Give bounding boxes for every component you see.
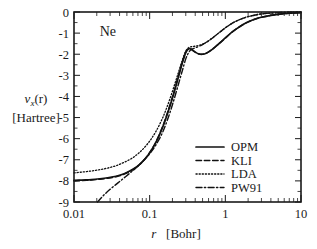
y-axis-arg: (r) bbox=[34, 91, 47, 106]
y-tick-label: -4 bbox=[59, 90, 70, 104]
plot-frame bbox=[74, 12, 301, 202]
data-curves bbox=[74, 12, 301, 202]
x-tick-label: 10 bbox=[295, 207, 308, 221]
legend-label-kli: KLI bbox=[231, 154, 252, 168]
xc-potential-chart: 0-1-2-3-4-5-6-7-8-9 0.010.1110 Ne vx(r) … bbox=[0, 0, 317, 249]
x-tick-label: 0.1 bbox=[142, 207, 158, 221]
y-tick-labels: 0-1-2-3-4-5-6-7-8-9 bbox=[59, 6, 70, 210]
y-tick-label: -8 bbox=[59, 174, 69, 188]
y-axis-unit: [Hartree] bbox=[12, 110, 60, 125]
legend-label-opm: OPM bbox=[231, 140, 258, 154]
x-tick-label: 0.01 bbox=[63, 207, 85, 221]
x-tick-labels: 0.010.1110 bbox=[63, 207, 307, 221]
y-tick-label: -3 bbox=[59, 69, 69, 83]
x-axis-title: r [Bohr] bbox=[151, 226, 200, 241]
y-tick-label: -5 bbox=[59, 111, 69, 125]
x-axis-unit: [Bohr] bbox=[166, 226, 201, 241]
species-annotation-label: Ne bbox=[100, 24, 116, 39]
y-axis-title: vx(r) bbox=[25, 91, 48, 108]
y-tick-label: 0 bbox=[63, 6, 69, 20]
legend-label-pw91: PW91 bbox=[231, 181, 262, 195]
y-tick-label: -6 bbox=[59, 132, 69, 146]
figure-container: 0-1-2-3-4-5-6-7-8-9 0.010.1110 Ne vx(r) … bbox=[0, 0, 317, 249]
x-tick-label: 1 bbox=[222, 207, 228, 221]
legend-label-lda: LDA bbox=[231, 167, 257, 181]
axis-ticks bbox=[74, 12, 301, 202]
y-tick-label: -2 bbox=[59, 48, 69, 62]
legend: OPMKLILDAPW91 bbox=[196, 140, 262, 195]
y-tick-label: -1 bbox=[59, 27, 69, 41]
y-tick-label: -7 bbox=[59, 153, 69, 167]
